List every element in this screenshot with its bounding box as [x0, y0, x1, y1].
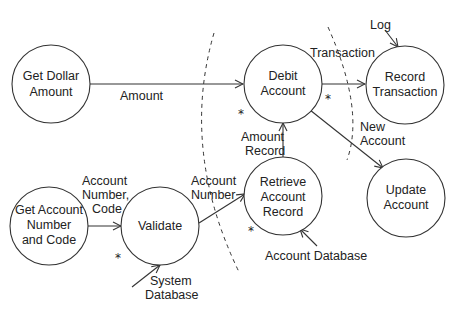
label-log: Log — [370, 18, 391, 32]
node-validate: Validate — [121, 187, 199, 265]
label-account-number-1: Account — [191, 174, 237, 188]
label-account: Account — [360, 134, 406, 148]
node-get-dollar-amount: Get Dollar Amount — [12, 45, 90, 123]
svg-text:Number: Number — [27, 218, 71, 232]
label-amount-record-1: Amount — [241, 130, 285, 144]
node-retrieve-account-record: Retrieve Account Record — [244, 157, 322, 235]
node-get-account-number-and-code: Get Account Number and Code — [10, 187, 88, 265]
svg-text:Get Account: Get Account — [15, 203, 84, 217]
svg-text:Transaction: Transaction — [373, 85, 438, 99]
label-account-number-2: Number — [191, 188, 235, 202]
svg-text:Get Dollar: Get Dollar — [23, 69, 79, 83]
star-marker: * — [238, 107, 244, 121]
svg-text:Account: Account — [260, 190, 306, 204]
label-new: New — [360, 120, 386, 134]
svg-text:Record: Record — [385, 70, 425, 84]
label-account-database: Account Database — [265, 249, 367, 263]
node-update-account: Update Account — [367, 159, 445, 237]
svg-text:and Code: and Code — [22, 233, 76, 247]
svg-text:Debit: Debit — [268, 69, 298, 83]
svg-text:Update: Update — [386, 183, 426, 197]
label-system: System — [150, 274, 192, 288]
svg-text:Amount: Amount — [29, 85, 73, 99]
label-database: Database — [145, 288, 199, 302]
label-amount-record-2: Record — [245, 144, 285, 158]
label-account-number-code-1: Account — [82, 174, 128, 188]
svg-text:Retrieve: Retrieve — [260, 175, 307, 189]
label-account-number-code-2: Number, — [82, 188, 129, 202]
node-record-transaction: Record Transaction — [366, 46, 444, 124]
star-marker: * — [325, 92, 331, 106]
edge-log — [385, 30, 398, 47]
edge-account-database — [300, 229, 317, 246]
boundary-left — [202, 33, 239, 272]
label-account-number-code-3: Code — [92, 202, 122, 216]
label-amount: Amount — [120, 89, 164, 103]
star-marker: * — [248, 224, 254, 238]
data-flow-diagram: Get Dollar Amount Debit Account Record T… — [0, 0, 457, 312]
star-marker: * — [115, 251, 121, 265]
svg-text:Account: Account — [260, 84, 306, 98]
svg-text:Record: Record — [263, 205, 303, 219]
label-transaction: Transaction — [310, 46, 375, 60]
svg-text:Validate: Validate — [138, 219, 182, 233]
svg-text:Account: Account — [383, 198, 429, 212]
